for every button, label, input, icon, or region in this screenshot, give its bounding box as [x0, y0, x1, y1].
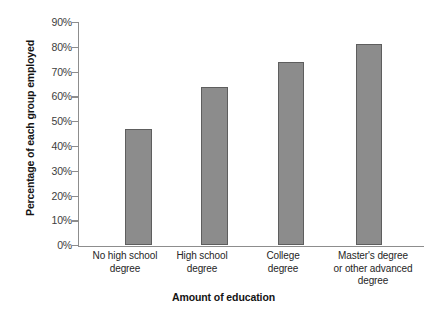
y-tick-10 [72, 220, 78, 221]
x-category-label-1-line-0: High school [165, 250, 239, 263]
y-axis-line [78, 22, 79, 247]
y-tick-label-0: 0% [30, 239, 72, 251]
plot-area [78, 22, 424, 247]
y-tick-label-90: 90% [30, 16, 72, 28]
y-tick-label-10: 10% [30, 214, 72, 226]
x-category-label-0: No high school degree [84, 250, 166, 275]
x-category-label-0-line-1: degree [84, 263, 166, 276]
y-axis-tick-labels: 90% 80% 70% 60% 50% 40% 30% 20% 10% 0% [28, 22, 72, 247]
x-category-label-1: High school degree [165, 250, 239, 275]
x-category-label-3-line-2: degree [313, 275, 433, 288]
x-axis-title: Amount of education [0, 291, 447, 303]
bar-chart: Percentage of each group employed 90% 80… [0, 0, 447, 312]
x-category-label-3: Master's degree or other advanced degree [313, 250, 433, 288]
y-tick-label-40: 40% [30, 140, 72, 152]
y-tick-30 [72, 171, 78, 172]
y-tick-label-30: 30% [30, 165, 72, 177]
y-tick-0 [72, 245, 78, 246]
y-tick-40 [72, 146, 78, 147]
bar-masters-degree [356, 44, 382, 245]
bar-college-degree [278, 62, 304, 246]
x-axis-line [78, 246, 424, 247]
x-category-label-3-line-0: Master's degree [313, 250, 433, 263]
x-category-label-1-line-1: degree [165, 263, 239, 276]
x-category-label-0-line-0: No high school [84, 250, 166, 263]
x-category-label-2: College degree [253, 250, 313, 275]
y-tick-80 [72, 47, 78, 48]
y-tick-label-50: 50% [30, 115, 72, 127]
y-tick-90 [72, 22, 78, 23]
x-category-label-2-line-1: degree [253, 263, 313, 276]
y-tick-70 [72, 72, 78, 73]
y-tick-20 [72, 196, 78, 197]
bar-high-school-degree [201, 87, 228, 246]
y-tick-label-80: 80% [30, 41, 72, 53]
y-tick-60 [72, 96, 78, 97]
y-tick-label-60: 60% [30, 90, 72, 102]
y-tick-50 [72, 121, 78, 122]
y-tick-label-70: 70% [30, 66, 72, 78]
y-tick-label-20: 20% [30, 190, 72, 202]
x-category-label-2-line-0: College [253, 250, 313, 263]
bar-no-high-school-degree [125, 129, 152, 246]
x-category-label-3-line-1: or other advanced [313, 263, 433, 276]
